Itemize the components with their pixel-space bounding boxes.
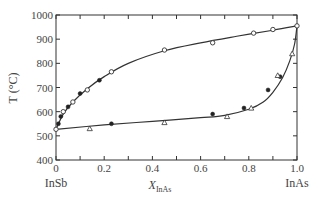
open-circle-point xyxy=(162,48,166,52)
filled-circle-point xyxy=(97,78,101,82)
x-tick-label: 0 xyxy=(53,162,59,174)
filled-circle-point xyxy=(242,106,246,110)
x-axis-ticks: 00.20.40.60.81.0 xyxy=(53,15,304,174)
x-left-end-label: InSb xyxy=(45,176,68,190)
y-tick-label: 500 xyxy=(37,130,54,142)
liquidus-curve xyxy=(56,26,297,129)
open-circle-point xyxy=(295,24,299,28)
x-tick-label: 0.8 xyxy=(242,162,256,174)
y-tick-label: 900 xyxy=(37,33,54,45)
phase-diagram-chart: 4005006007008009001000 00.20.40.60.81.0 … xyxy=(0,0,321,197)
y-tick-label: 1000 xyxy=(31,9,54,21)
filled-circle-point xyxy=(266,88,270,92)
data-points xyxy=(54,24,299,132)
y-tick-label: 400 xyxy=(37,154,54,166)
y-tick-label: 800 xyxy=(37,57,54,69)
open-circle-point xyxy=(85,88,89,92)
y-tick-label: 700 xyxy=(37,82,54,94)
y-axis-label: T (°C) xyxy=(6,73,20,104)
x-tick-label: 1.0 xyxy=(290,162,304,174)
y-tick-label: 600 xyxy=(37,106,54,118)
filled-circle-point xyxy=(211,112,215,116)
x-tick-label: 0.6 xyxy=(194,162,208,174)
solidus-curve xyxy=(56,26,297,129)
open-circle-point xyxy=(61,109,65,113)
open-circle-point xyxy=(54,127,58,131)
x-tick-label: 0.2 xyxy=(97,162,111,174)
open-circle-point xyxy=(271,27,275,31)
x-tick-label: 0.4 xyxy=(146,162,160,174)
open-triangle-point xyxy=(290,51,295,56)
open-circle-point xyxy=(109,70,113,74)
filled-circle-point xyxy=(59,115,63,119)
open-circle-point xyxy=(251,31,255,35)
plot-border xyxy=(56,15,297,160)
plot-frame xyxy=(56,15,297,160)
open-circle-point xyxy=(210,41,214,45)
filled-circle-point xyxy=(66,105,70,109)
filled-circle-point xyxy=(109,122,113,126)
filled-circle-point xyxy=(78,92,82,96)
x-right-end-label: InAs xyxy=(285,176,309,190)
phase-curves xyxy=(56,26,297,129)
open-circle-point xyxy=(71,100,75,104)
x-axis-label: XInAs xyxy=(148,178,172,194)
filled-circle-point xyxy=(56,122,60,126)
x-axis-label-subscript: InAs xyxy=(156,185,172,194)
